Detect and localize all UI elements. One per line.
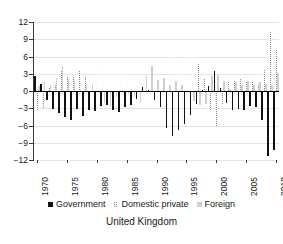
- x-tick-label: 1985: [131, 177, 140, 196]
- bar: [106, 91, 108, 105]
- y-tick-label: 9: [2, 35, 28, 44]
- legend-label-government: Government: [56, 199, 106, 209]
- bar: [96, 69, 98, 91]
- bar: [120, 71, 122, 91]
- x-tick-mark: [157, 160, 158, 163]
- y-tick-mark: [29, 126, 33, 127]
- legend-label-foreign: Foreign: [205, 199, 236, 209]
- x-tick-mark: [216, 160, 217, 163]
- y-tick-mark: [29, 160, 33, 161]
- bar: [269, 32, 271, 91]
- x-tick-label: 2005: [250, 177, 259, 196]
- bar: [76, 91, 78, 109]
- bar: [238, 91, 240, 109]
- bar: [186, 57, 188, 91]
- bar: [172, 91, 174, 136]
- bar: [178, 91, 180, 130]
- y-tick-mark: [29, 143, 33, 144]
- bar: [209, 91, 211, 111]
- x-tick-label: 2000: [220, 177, 229, 196]
- x-tick-mark: [37, 160, 38, 163]
- bar: [232, 91, 234, 110]
- bar: [196, 91, 198, 104]
- bar: [214, 71, 216, 91]
- y-tick-label: −9: [2, 139, 28, 148]
- y-tick-label: 6: [2, 53, 28, 62]
- bar: [168, 91, 170, 117]
- legend-item-government[interactable]: Government: [48, 199, 106, 209]
- bar: [100, 91, 102, 106]
- bar: [42, 91, 44, 108]
- x-tick-mark: [67, 160, 68, 163]
- bar: [243, 91, 245, 110]
- y-tick-mark: [29, 22, 33, 23]
- bar: [70, 91, 72, 120]
- zero-axis-line: [34, 91, 279, 92]
- bar: [138, 71, 140, 91]
- y-tick-label: 3: [2, 70, 28, 79]
- bar: [273, 91, 275, 150]
- x-tick-label: 1975: [71, 177, 80, 196]
- bar: [255, 91, 257, 107]
- bar: [82, 91, 84, 116]
- bar: [184, 91, 186, 124]
- legend-swatch-foreign-icon: [197, 202, 202, 207]
- bar: [261, 91, 263, 120]
- bar: [102, 64, 104, 91]
- x-tick-label: 2010: [280, 177, 283, 196]
- bar: [94, 91, 96, 111]
- bar: [112, 91, 114, 110]
- legend-swatch-government-icon: [48, 202, 53, 207]
- bar: [124, 91, 126, 107]
- x-tick-label: 1995: [190, 177, 199, 196]
- chart-figure: 129630−3−6−9−12 197019751980198519901995…: [0, 0, 283, 244]
- bar: [203, 79, 205, 91]
- bar: [88, 91, 90, 110]
- bar: [249, 91, 251, 106]
- bar: [197, 64, 199, 91]
- bar: [34, 76, 36, 91]
- y-tick-mark: [29, 74, 33, 75]
- bar: [118, 91, 120, 112]
- bar: [78, 71, 80, 91]
- legend-item-foreign[interactable]: Foreign: [197, 199, 236, 209]
- y-tick-mark: [29, 57, 33, 58]
- chart-legend: Government Domestic private Foreign: [0, 199, 283, 209]
- legend-item-domestic-private[interactable]: Domestic private: [113, 199, 188, 209]
- bar: [215, 91, 217, 126]
- y-tick-mark: [29, 39, 33, 40]
- x-tick-mark: [127, 160, 128, 163]
- y-tick-label: −6: [2, 122, 28, 131]
- y-tick-label: 12: [2, 18, 28, 27]
- bar: [221, 91, 223, 104]
- bar: [130, 91, 132, 105]
- bar: [64, 91, 66, 117]
- bar: [36, 91, 38, 111]
- bar: [192, 57, 194, 91]
- bar: [108, 62, 110, 91]
- bar: [58, 91, 60, 113]
- bar: [136, 91, 138, 99]
- bar: [160, 91, 162, 107]
- plot-area: [34, 22, 279, 160]
- bar: [114, 66, 116, 91]
- bar: [267, 91, 269, 156]
- y-tick-label: −3: [2, 104, 28, 113]
- bar: [190, 91, 192, 115]
- bar: [126, 71, 128, 91]
- bar: [132, 71, 134, 91]
- bar: [40, 84, 42, 91]
- x-tick-label: 1970: [41, 177, 50, 196]
- legend-swatch-domestic-private-icon: [113, 202, 118, 207]
- x-tick-label: 1990: [161, 177, 170, 196]
- x-tick-mark: [246, 160, 247, 163]
- x-tick-mark: [276, 160, 277, 163]
- y-tick-mark: [29, 108, 33, 109]
- bar: [52, 91, 54, 109]
- legend-label-domestic-private: Domestic private: [121, 199, 188, 209]
- bar: [277, 73, 279, 91]
- y-tick-label: 0: [2, 87, 28, 96]
- bar: [46, 91, 48, 100]
- x-tick-label: 1980: [101, 177, 110, 196]
- bar: [226, 91, 228, 103]
